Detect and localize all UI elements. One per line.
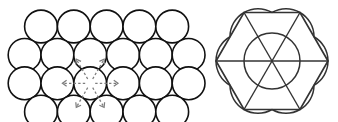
- hexagonal-close-packed-circles: [8, 10, 205, 122]
- packing-circle: [90, 95, 123, 122]
- packing-circle: [25, 10, 58, 43]
- packing-circle: [156, 95, 189, 122]
- packing-circle: [156, 10, 189, 43]
- packing-circle: [57, 10, 90, 43]
- packing-circle: [57, 95, 90, 122]
- packing-diagram-svg: [0, 0, 338, 122]
- hexagon-outline: [216, 13, 328, 110]
- packing-circle: [123, 10, 156, 43]
- packing-circle: [41, 67, 74, 100]
- figure-root: [0, 0, 338, 122]
- packing-circle: [172, 67, 205, 100]
- packing-circle: [8, 67, 41, 100]
- packing-circle: [90, 10, 123, 43]
- packing-circle: [25, 95, 58, 122]
- packing-circle: [107, 67, 140, 100]
- hexagonal-unit-cell: [216, 9, 328, 114]
- packing-circle: [123, 95, 156, 122]
- packing-circle: [139, 67, 172, 100]
